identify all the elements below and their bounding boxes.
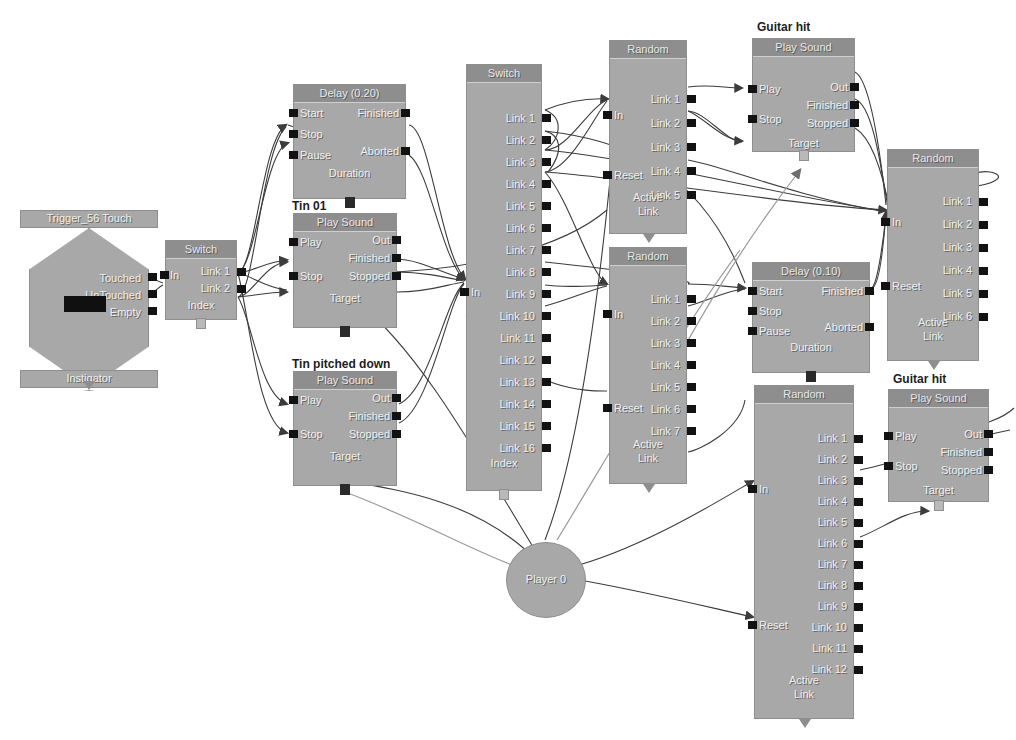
pin-row[interactable]: Link 3	[467, 151, 541, 173]
target-stub[interactable]	[340, 326, 350, 337]
pin-row[interactable]: Link 2	[888, 213, 978, 236]
active-link-stub[interactable]	[799, 719, 811, 728]
input-pin[interactable]	[289, 430, 298, 438]
output-row[interactable]: Aborted	[360, 145, 399, 157]
output-pin[interactable]	[854, 624, 863, 632]
output-pin[interactable]	[854, 456, 863, 464]
output-pin[interactable]	[392, 394, 401, 402]
output-row[interactable]: Finished	[806, 99, 848, 111]
active-link-stub[interactable]	[643, 484, 655, 493]
input-pin[interactable]	[748, 485, 757, 493]
output-pin[interactable]	[687, 143, 696, 151]
input-pin[interactable]	[603, 171, 612, 179]
output-pin[interactable]	[392, 272, 401, 280]
pin-row[interactable]: Link 13	[467, 371, 541, 393]
node-delay-010[interactable]: Delay (0.10) Start Stop Pause Finished A…	[752, 262, 870, 373]
pin-row[interactable]: Link 1	[610, 87, 686, 111]
input-row[interactable]: In	[614, 109, 623, 121]
output-pin[interactable]	[854, 435, 863, 443]
pin-row[interactable]: Link 9	[755, 596, 853, 617]
output-row[interactable]: Stopped	[349, 428, 390, 440]
input-pin[interactable]	[460, 288, 469, 296]
output-row[interactable]: Out	[964, 428, 982, 440]
output-row[interactable]: Finished	[348, 410, 390, 422]
pin-row[interactable]: Link 2	[166, 280, 236, 297]
output-pin[interactable]	[854, 666, 863, 674]
input-row[interactable]: In	[892, 216, 901, 228]
output-pin[interactable]	[237, 285, 246, 293]
active-link-stub[interactable]	[643, 234, 655, 243]
trigger-instigator-stub[interactable]	[83, 381, 95, 391]
input-pin[interactable]	[160, 271, 169, 279]
input-row[interactable]: In	[170, 269, 179, 281]
pin-row[interactable]: Link 11	[467, 327, 541, 349]
node-random-top[interactable]: Random Link 1Link 2Link 3Link 4Link 5 In…	[609, 40, 687, 234]
input-row[interactable]: Reset	[614, 169, 643, 181]
input-row[interactable]: Start	[759, 285, 782, 297]
input-row[interactable]: Play	[300, 394, 321, 406]
pin-row[interactable]: Link 16	[467, 437, 541, 459]
input-row[interactable]: Stop	[300, 428, 323, 440]
node-random-mid[interactable]: Random Link 1Link 2Link 3Link 4Link 5Lin…	[609, 247, 687, 484]
pin-row[interactable]: Link 7	[467, 239, 541, 261]
input-row[interactable]: In	[759, 483, 768, 495]
output-pin[interactable]	[687, 317, 696, 325]
output-row[interactable]: Out	[830, 81, 848, 93]
output-pin[interactable]	[854, 645, 863, 653]
node-playsound-tin01[interactable]: Play Sound Play Stop Out Finished Stoppe…	[293, 213, 397, 328]
pin-row[interactable]: Link 3	[610, 135, 686, 159]
output-pin[interactable]	[401, 109, 410, 117]
output-row[interactable]: Finished	[940, 446, 982, 458]
pin-row[interactable]: Link 5	[467, 195, 541, 217]
output-row[interactable]: Out	[372, 392, 390, 404]
output-pin[interactable]	[687, 191, 696, 199]
output-pin[interactable]	[542, 158, 551, 166]
output-row[interactable]: Finished	[357, 107, 399, 119]
input-row[interactable]: Start	[300, 107, 323, 119]
output-pin[interactable]	[148, 307, 157, 315]
input-row[interactable]: In	[471, 286, 480, 298]
output-pin[interactable]	[148, 290, 157, 298]
output-pin[interactable]	[542, 180, 551, 188]
output-pin[interactable]	[542, 422, 551, 430]
input-pin[interactable]	[603, 310, 612, 318]
node-graph-canvas[interactable]: Trigger_56 Touch Touched UnTouched Empty…	[0, 0, 1016, 740]
input-pin[interactable]	[289, 238, 298, 246]
pin-row[interactable]: Link 6	[755, 533, 853, 554]
index-stub[interactable]	[499, 489, 509, 500]
target-stub[interactable]	[340, 484, 350, 495]
output-pin[interactable]	[854, 603, 863, 611]
input-pin[interactable]	[748, 287, 757, 295]
output-pin[interactable]	[687, 405, 696, 413]
pin-row[interactable]: Link 2	[467, 129, 541, 151]
output-pin[interactable]	[392, 236, 401, 244]
pin-row[interactable]: Link 6	[467, 217, 541, 239]
output-row[interactable]: Finished	[348, 252, 390, 264]
output-pin[interactable]	[542, 268, 551, 276]
pin-row[interactable]: Link 4	[755, 491, 853, 512]
pin-row[interactable]: Link 2	[755, 449, 853, 470]
node-switch-small[interactable]: Switch Link 1 Link 2 Index In	[165, 240, 237, 320]
pin-row[interactable]: Link 14	[467, 393, 541, 415]
pin-row[interactable]: Link 1	[610, 288, 686, 310]
output-pin[interactable]	[854, 561, 863, 569]
input-pin[interactable]	[748, 85, 757, 93]
trigger-output-row[interactable]: Touched	[29, 268, 147, 285]
pin-row[interactable]: Link 8	[467, 261, 541, 283]
output-row[interactable]: Stopped	[349, 270, 390, 282]
pin-row[interactable]: Link 3	[755, 470, 853, 491]
output-pin[interactable]	[854, 540, 863, 548]
pin-row[interactable]: Link 7	[755, 554, 853, 575]
event-node-trigger[interactable]: Trigger_56 Touch Touched UnTouched Empty…	[20, 210, 158, 395]
output-pin[interactable]	[392, 412, 401, 420]
output-pin[interactable]	[542, 114, 551, 122]
pin-row[interactable]: Link 1	[888, 190, 978, 213]
input-row[interactable]: Reset	[614, 402, 643, 414]
pin-row[interactable]: Link 4	[467, 173, 541, 195]
input-row[interactable]: Play	[300, 236, 321, 248]
output-pin[interactable]	[687, 295, 696, 303]
active-link-stub[interactable]	[928, 361, 940, 370]
input-row[interactable]: Stop	[895, 460, 918, 472]
output-pin[interactable]	[854, 519, 863, 527]
input-row[interactable]: In	[614, 308, 623, 320]
